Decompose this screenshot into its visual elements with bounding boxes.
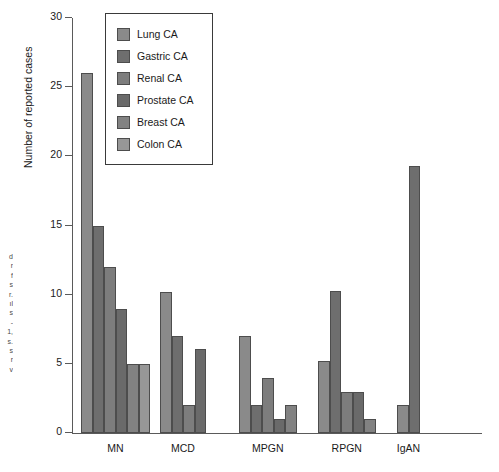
- bar-igan-lung-ca: [397, 405, 409, 433]
- legend-label: Breast CA: [137, 116, 185, 128]
- bar-rpgn-prostate-ca: [353, 392, 365, 434]
- bar-mn-prostate-ca: [116, 309, 128, 434]
- y-tick-20: 20: [65, 155, 72, 156]
- legend-swatch-icon-lung-ca: [117, 28, 130, 41]
- y-tick-15: 15: [65, 225, 72, 226]
- y-tick-30: 30: [65, 17, 72, 18]
- bar-mpgn-gastric-ca: [251, 405, 263, 433]
- x-tick-label-mpgn: MPGN: [252, 442, 284, 454]
- y-tick-25: 25: [65, 86, 72, 87]
- figure: d r f s r. ıl s - 1, s. s r v 0510152025…: [0, 0, 499, 472]
- bar-mpgn-prostate-ca: [274, 419, 286, 433]
- legend-label: Lung CA: [137, 28, 178, 40]
- y-tick-label-15: 15: [50, 218, 62, 230]
- bar-rpgn-renal-ca: [341, 392, 353, 434]
- caption-fragment: d r f s r. ıl s - 1, s. s r v: [1, 252, 13, 374]
- y-tick-label-20: 20: [50, 148, 62, 160]
- y-axis-line: [72, 18, 73, 434]
- x-tick-label-rpgn: RPGN: [332, 442, 362, 454]
- bar-mcd-gastric-ca: [172, 336, 184, 433]
- y-tick-0: 0: [65, 432, 72, 433]
- bar-mn-lung-ca: [81, 73, 93, 433]
- x-tick-label-mcd: MCD: [171, 442, 195, 454]
- legend-item-prostate-ca: Prostate CA: [106, 89, 212, 111]
- bar-mn-colon-ca: [139, 364, 151, 433]
- legend-item-colon-ca: Colon CA: [106, 133, 212, 155]
- bar-rpgn-lung-ca: [318, 361, 330, 433]
- legend-swatch-icon-renal-ca: [117, 72, 130, 85]
- legend-label: Gastric CA: [137, 50, 188, 62]
- y-axis-title: Number of reported cases: [22, 47, 34, 168]
- legend-item-breast-ca: Breast CA: [106, 111, 212, 133]
- legend-label: Renal CA: [137, 72, 182, 84]
- legend-label: Colon CA: [137, 138, 182, 150]
- bar-mpgn-breast-ca: [285, 405, 297, 433]
- x-tick-label-igan: IgAN: [397, 442, 420, 454]
- x-axis-line: [72, 433, 482, 434]
- y-tick-10: 10: [65, 294, 72, 295]
- bar-mpgn-lung-ca: [239, 336, 251, 433]
- legend-swatch-icon-gastric-ca: [117, 50, 130, 63]
- bar-mcd-renal-ca: [183, 405, 195, 433]
- bar-rpgn-gastric-ca: [330, 291, 342, 433]
- y-tick-label-25: 25: [50, 79, 62, 91]
- legend-swatch-icon-colon-ca: [117, 138, 130, 151]
- y-tick-label-30: 30: [50, 10, 62, 22]
- bar-igan-gastric-ca: [409, 166, 421, 433]
- y-tick-label-10: 10: [50, 287, 62, 299]
- legend-item-lung-ca: Lung CA: [106, 23, 212, 45]
- bar-mcd-prostate-ca: [195, 349, 207, 433]
- legend-swatch-icon-prostate-ca: [117, 94, 130, 107]
- legend-item-renal-ca: Renal CA: [106, 67, 212, 89]
- bar-mn-breast-ca: [127, 364, 139, 433]
- y-tick-label-0: 0: [56, 425, 62, 437]
- bar-mn-renal-ca: [104, 267, 116, 433]
- x-tick-label-mn: MN: [107, 442, 123, 454]
- y-tick-label-5: 5: [56, 356, 62, 368]
- legend-item-gastric-ca: Gastric CA: [106, 45, 212, 67]
- bar-mn-gastric-ca: [93, 226, 105, 434]
- y-tick-5: 5: [65, 363, 72, 364]
- legend-label: Prostate CA: [137, 94, 194, 106]
- legend: Lung CAGastric CARenal CAProstate CABrea…: [105, 13, 213, 165]
- bar-mcd-lung-ca: [160, 292, 172, 433]
- bar-mpgn-renal-ca: [262, 378, 274, 433]
- bar-rpgn-breast-ca: [364, 419, 376, 433]
- legend-swatch-icon-breast-ca: [117, 116, 130, 129]
